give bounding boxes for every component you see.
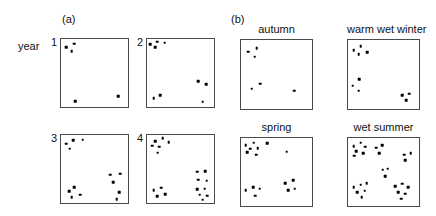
data-point [204,170,207,173]
data-point [404,159,407,162]
data-point [256,147,259,150]
data-point [73,186,76,189]
data-point [203,187,206,190]
data-point [73,42,76,45]
data-point [199,194,202,197]
data-point [407,186,410,189]
data-point [381,144,384,147]
data-point [247,50,250,53]
data-point [197,80,200,83]
panel-index-year-2: 2 [133,37,143,48]
data-point [363,190,366,193]
data-point [364,146,367,149]
panel-wet-summer: wet summer [347,137,420,207]
data-point [68,147,71,150]
data-point [164,193,167,196]
data-point [156,195,159,198]
figure-canvas: (a)(b)year1234autumnwarm wet wintersprin… [0,0,436,216]
data-point [255,153,258,156]
panel-index-year-1: 1 [47,37,57,48]
data-point [201,100,204,103]
data-point [401,183,404,186]
data-point [115,198,118,201]
data-point [245,144,248,147]
data-point [356,191,359,194]
panel-frame-year-1 [60,38,129,108]
data-point [404,192,407,195]
panel-title-wet-summer: wet summer [347,122,420,133]
data-point [249,148,252,151]
panel-group-label-a: (a) [62,14,75,25]
data-point [365,182,368,185]
data-point [253,55,256,58]
data-point [152,97,155,100]
data-point [409,152,412,155]
data-point [400,197,403,200]
data-point [384,175,387,178]
panel-year-2: 2 [146,38,215,108]
data-point [292,179,295,182]
year-axis-label: year [18,41,39,52]
data-point [197,178,200,181]
data-point [246,151,249,154]
data-point [353,155,356,158]
data-point [154,140,157,143]
data-point [68,190,71,193]
data-point [79,194,82,197]
data-point [201,199,204,202]
data-point [357,53,360,56]
data-point [401,94,404,97]
data-point [250,87,253,90]
panel-warm-wet-winter: warm wet winter [347,39,420,110]
panel-title-warm-wet-winter: warm wet winter [347,24,420,35]
data-point [70,50,73,53]
data-point [156,40,159,43]
data-point [109,173,112,176]
data-point [408,92,411,95]
data-point [159,94,162,97]
data-point [119,173,122,176]
data-point [405,99,408,102]
data-point [245,189,248,192]
data-point [117,95,120,98]
data-point [287,189,290,192]
data-point [205,180,208,183]
data-point [378,152,381,155]
data-point [284,182,287,185]
data-point [362,152,365,155]
data-point [293,90,296,93]
data-point [151,145,154,148]
panel-frame-warm-wet-winter [347,39,420,110]
data-point [360,196,363,199]
data-point [253,141,256,144]
panel-spring: spring [240,137,313,207]
data-point [352,145,355,148]
data-point [118,191,121,194]
data-point [293,188,296,191]
panel-title-autumn: autumn [240,24,313,35]
panel-year-4: 4 [146,134,215,204]
data-point [366,51,369,54]
panel-index-year-3: 3 [47,133,57,144]
data-point [206,194,209,197]
data-point [381,169,384,172]
data-point [65,46,68,49]
data-point [357,90,360,93]
data-point [70,196,73,199]
data-point [72,139,75,142]
data-point [152,189,155,192]
data-point [397,191,400,194]
data-point [158,145,161,148]
data-point [205,83,208,86]
data-point [259,82,262,85]
data-point [352,49,355,52]
data-point [65,143,68,146]
data-point [403,153,406,156]
panel-index-year-4: 4 [133,133,143,144]
data-point [154,46,157,49]
data-point [375,146,378,149]
data-point [255,47,258,50]
panel-autumn: autumn [240,39,313,110]
panel-frame-wet-summer [347,137,420,207]
data-point [167,141,170,144]
